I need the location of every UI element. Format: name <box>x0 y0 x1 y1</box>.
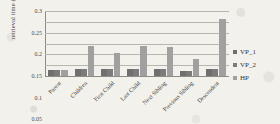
bar-vp2-children <box>81 69 87 76</box>
bar-group <box>124 11 150 76</box>
y-axis-tick-label: 0.1 <box>35 95 43 101</box>
bar-chart: retrieval time (sec) 00.050.10.150.20.25… <box>0 0 280 124</box>
bar-group <box>203 11 229 76</box>
plot-area: 00.050.10.150.20.250.3 <box>45 11 229 76</box>
bar-vp2-descendent <box>212 69 218 76</box>
x-axis-labels: ParentChildrenFirst ChildLast ChildNext … <box>45 78 229 122</box>
x-axis-tick-label: Parent <box>47 80 62 95</box>
bar-hp-children <box>88 46 95 76</box>
bar-vp2-previous-sibling <box>186 71 192 76</box>
legend-swatch <box>233 76 237 80</box>
legend-label: VP_2 <box>240 61 256 69</box>
bar-hp-first-child <box>114 53 121 76</box>
bar-hp-descendent <box>219 19 226 76</box>
gridline: 0 <box>45 76 229 77</box>
y-axis-tick-label: 0.3 <box>35 8 43 14</box>
legend-label: VP_1 <box>240 48 256 56</box>
bar-groups <box>45 11 229 76</box>
y-axis-tick-label: 0.05 <box>32 116 43 122</box>
chart-legend: VP_1VP_2HP <box>233 45 279 84</box>
x-axis-tick: Descendent <box>203 78 229 122</box>
bar-group <box>98 11 124 76</box>
bar-hp-last-child <box>140 46 147 76</box>
legend-label: HP <box>240 74 249 82</box>
bar-group <box>71 11 97 76</box>
bar-hp-next-sibling <box>167 47 174 76</box>
y-axis-tick-label: 0.25 <box>32 30 43 36</box>
bar-hp-parent <box>61 70 68 77</box>
bar-vp2-next-sibling <box>160 69 166 76</box>
y-axis-title: retrieval time (sec) <box>9 0 21 49</box>
y-axis-tick-label: 0.2 <box>35 51 43 57</box>
x-axis-tick: Parent <box>45 78 71 122</box>
bar-vp2-parent <box>54 70 60 77</box>
legend-item-vp1[interactable]: VP_1 <box>233 45 279 58</box>
bar-group <box>176 11 202 76</box>
legend-item-hp[interactable]: HP <box>233 71 279 84</box>
legend-item-vp2[interactable]: VP_2 <box>233 58 279 71</box>
bar-group <box>150 11 176 76</box>
bar-group <box>45 11 71 76</box>
x-axis-tick: First Child <box>98 78 124 122</box>
bar-hp-previous-sibling <box>193 59 200 76</box>
x-axis-tick-label: Children <box>70 80 89 99</box>
legend-swatch <box>233 50 237 54</box>
y-axis-tick-label: 0.15 <box>32 73 43 79</box>
legend-swatch <box>233 63 237 67</box>
bar-vp2-first-child <box>107 69 113 76</box>
bar-vp2-last-child <box>133 69 139 76</box>
